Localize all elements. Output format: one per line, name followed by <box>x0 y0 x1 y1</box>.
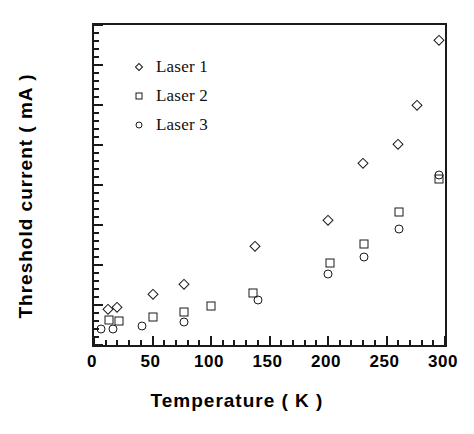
data-point <box>180 318 189 327</box>
data-point <box>253 296 262 305</box>
y-axis-minor-tick <box>94 240 99 242</box>
x-axis-minor-tick <box>257 340 259 345</box>
data-point <box>395 225 404 234</box>
x-axis-tick-label: 50 <box>141 352 161 372</box>
x-axis-tick-label: 150 <box>253 352 283 372</box>
data-point <box>434 35 445 46</box>
legend-item: Laser 2 <box>130 81 208 110</box>
x-axis-title: Temperature ( K ) <box>0 390 474 412</box>
y-axis-minor-tick <box>94 112 99 114</box>
data-point <box>108 324 117 333</box>
y-axis-minor-tick <box>94 296 99 298</box>
y-axis-minor-tick <box>94 216 99 218</box>
y-axis-minor-tick <box>94 96 99 98</box>
x-axis-minor-tick <box>315 340 317 345</box>
square-marker-icon <box>136 92 143 99</box>
x-axis-minor-tick <box>175 340 177 345</box>
data-point <box>360 239 369 248</box>
y-axis-minor-tick <box>94 80 99 82</box>
chart-legend: Laser 1Laser 2Laser 3 <box>130 52 208 139</box>
legend-marker <box>130 89 156 103</box>
y-axis-major-tick <box>94 144 103 146</box>
data-point <box>323 215 334 226</box>
y-axis-minor-tick <box>94 336 99 338</box>
legend-label: Laser 3 <box>156 115 208 135</box>
x-axis-minor-tick <box>397 340 399 345</box>
data-point <box>207 302 216 311</box>
x-axis-minor-tick <box>198 340 200 345</box>
y-axis-minor-tick <box>94 120 99 122</box>
y-axis-minor-tick <box>94 168 99 170</box>
y-axis-minor-tick <box>94 136 99 138</box>
x-axis-minor-tick <box>374 340 376 345</box>
data-point <box>360 253 369 262</box>
data-point <box>112 301 123 312</box>
y-axis-minor-tick <box>94 40 99 42</box>
x-axis-minor-tick <box>362 340 364 345</box>
x-axis-minor-tick <box>116 340 118 345</box>
x-axis-tick-label: 300 <box>428 352 458 372</box>
data-point <box>97 325 106 334</box>
x-axis-minor-tick <box>280 340 282 345</box>
x-axis-major-tick <box>386 336 388 345</box>
legend-marker <box>130 118 156 132</box>
data-point <box>358 157 369 168</box>
x-axis-minor-tick <box>421 340 423 345</box>
diamond-marker-icon <box>135 62 143 70</box>
data-point <box>395 208 404 217</box>
x-axis-tick-label: 250 <box>370 352 400 372</box>
y-axis-minor-tick <box>94 160 99 162</box>
x-axis-minor-tick <box>105 340 107 345</box>
x-axis-minor-tick <box>140 340 142 345</box>
y-axis-minor-tick <box>94 208 99 210</box>
data-point <box>393 139 404 150</box>
legend-label: Laser 1 <box>156 57 208 77</box>
x-axis-minor-tick <box>432 340 434 345</box>
data-point <box>180 307 189 316</box>
data-point <box>435 171 444 180</box>
y-axis-major-tick <box>94 104 103 106</box>
data-point <box>326 259 335 268</box>
legend-item: Laser 1 <box>130 52 208 81</box>
y-axis-minor-tick <box>94 200 99 202</box>
y-axis-minor-tick <box>94 288 99 290</box>
data-point <box>137 321 146 330</box>
y-axis-minor-tick <box>94 272 99 274</box>
data-point <box>324 269 333 278</box>
y-axis-minor-tick <box>94 248 99 250</box>
y-axis-minor-tick <box>94 176 99 178</box>
y-axis-minor-tick <box>94 48 99 50</box>
x-axis-minor-tick <box>233 340 235 345</box>
x-axis-minor-tick <box>187 340 189 345</box>
data-point <box>114 316 123 325</box>
y-axis-major-tick <box>94 184 103 186</box>
circle-marker-icon <box>136 121 143 128</box>
y-axis-major-tick <box>94 64 103 66</box>
threshold-current-chart: Threshold current ( mA ) Laser 1Laser 2L… <box>0 0 474 434</box>
y-axis-major-tick <box>94 224 103 226</box>
x-axis-minor-tick <box>222 340 224 345</box>
y-axis-minor-tick <box>94 72 99 74</box>
data-point <box>412 99 423 110</box>
y-axis-minor-tick <box>94 128 99 130</box>
y-axis-minor-tick <box>94 32 99 34</box>
x-axis-major-tick <box>152 336 154 345</box>
legend-label: Laser 2 <box>156 86 208 106</box>
y-axis-major-tick <box>94 304 103 306</box>
x-axis-minor-tick <box>339 340 341 345</box>
y-axis-minor-tick <box>94 232 99 234</box>
x-axis-major-tick <box>269 336 271 345</box>
data-point <box>147 289 158 300</box>
y-axis-minor-tick <box>94 256 99 258</box>
x-axis-tick-label: 0 <box>87 352 97 372</box>
x-axis-tick-label: 100 <box>194 352 224 372</box>
x-axis-minor-tick <box>245 340 247 345</box>
y-axis-major-tick <box>94 264 103 266</box>
y-axis-minor-tick <box>94 280 99 282</box>
data-point <box>148 312 157 321</box>
x-axis-minor-tick <box>304 340 306 345</box>
y-axis-title: Threshold current ( mA ) <box>15 46 37 346</box>
y-axis-minor-tick <box>94 312 99 314</box>
legend-item: Laser 3 <box>130 110 208 139</box>
plot-frame: Laser 1Laser 2Laser 3 <box>92 23 447 347</box>
